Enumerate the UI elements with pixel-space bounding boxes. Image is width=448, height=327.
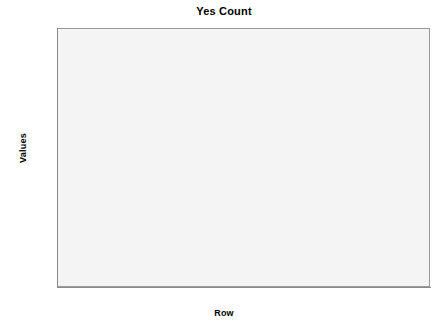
x-axis-title: Row: [0, 308, 448, 318]
y-axis-title: Values: [18, 108, 28, 188]
plot-area: [57, 28, 430, 287]
chart-title: Yes Count: [0, 5, 448, 17]
x-axis-line: [57, 287, 431, 288]
bar-chart-figure: Yes Count Values Row: [0, 0, 448, 327]
bars-container: [58, 29, 429, 286]
y-axis-line: [57, 28, 58, 288]
